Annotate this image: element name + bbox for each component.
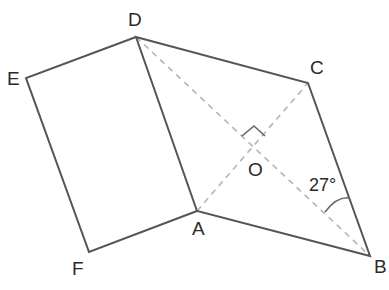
label-f: F xyxy=(72,259,84,278)
diagram-svg xyxy=(0,0,389,290)
label-c: C xyxy=(310,58,324,77)
label-o: O xyxy=(248,160,263,179)
label-b: B xyxy=(374,257,387,276)
label-e: E xyxy=(7,69,20,88)
angle-label-27: 27° xyxy=(309,176,336,194)
label-d: D xyxy=(128,10,142,29)
right-angle-marker xyxy=(242,126,265,136)
diagonal-ac xyxy=(197,83,308,211)
label-a: A xyxy=(192,219,205,238)
diagonal-db xyxy=(136,37,370,256)
angle-arc-b xyxy=(325,198,350,212)
geometry-diagram: D C E O A F B 27° xyxy=(0,0,389,290)
